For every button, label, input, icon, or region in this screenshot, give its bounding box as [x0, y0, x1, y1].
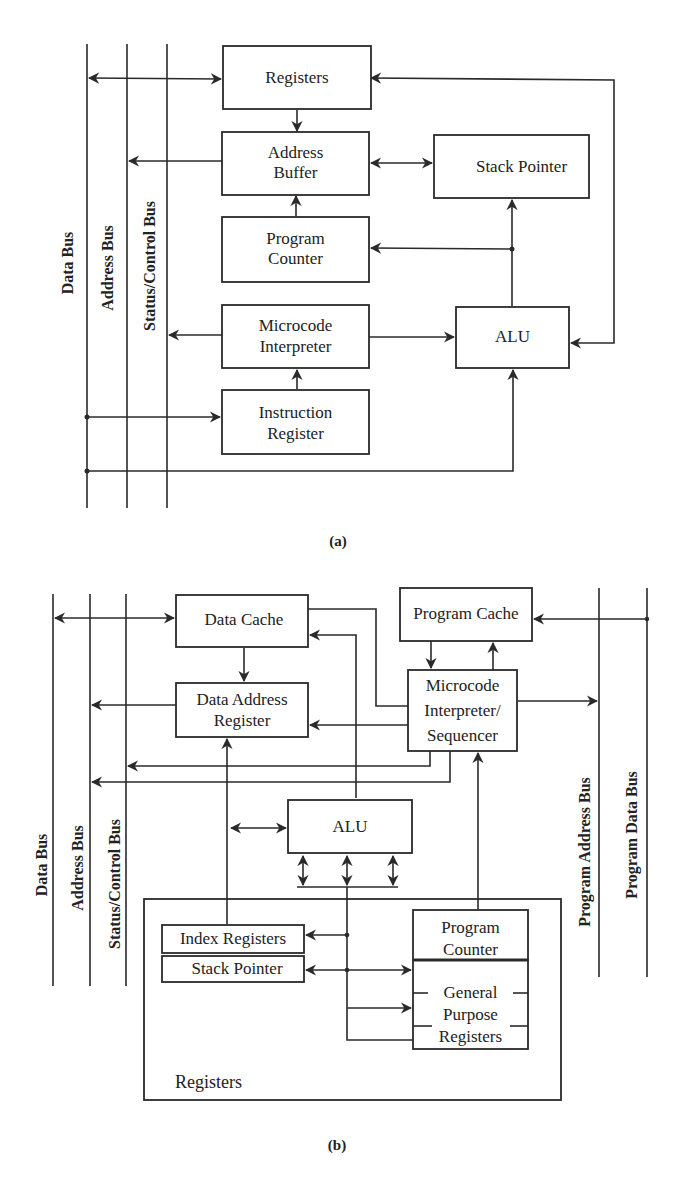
b-microcode-label-2: Interpreter/ — [408, 701, 517, 721]
b-gpr-label-2: Purpose — [413, 1005, 528, 1025]
b-data-cache-label: Data Cache — [180, 610, 308, 630]
a-address-buffer-label-1: Address — [222, 143, 369, 163]
b-registers-group-label: Registers — [175, 1072, 242, 1092]
a-address-bus-label: Address Bus — [99, 225, 117, 311]
a-alu-label: ALU — [456, 327, 569, 347]
b-gpr-label-1: General — [413, 983, 528, 1003]
caption-b: (b) — [328, 1137, 346, 1154]
a-instruction-register-label-2: Register — [222, 424, 369, 444]
b-dar-label-2: Register — [176, 711, 308, 731]
b-microcode-label-1: Microcode — [408, 676, 517, 696]
a-stack-pointer-label: Stack Pointer — [444, 157, 599, 177]
b-program-address-bus-label: Program Address Bus — [576, 777, 594, 927]
b-status-control-bus-label: Status/Control Bus — [106, 819, 124, 949]
b-program-counter-label-1: Program — [413, 918, 528, 938]
b-program-cache-label: Program Cache — [400, 604, 532, 624]
a-address-buffer-label-2: Buffer — [222, 163, 369, 183]
b-alu-label: ALU — [288, 817, 412, 837]
b-index-registers-label: Index Registers — [162, 929, 304, 949]
b-address-bus-label: Address Bus — [69, 825, 87, 911]
a-program-counter-label-1: Program — [222, 229, 369, 249]
b-program-data-bus-label: Program Data Bus — [623, 771, 641, 899]
b-program-counter-label-2: Counter — [413, 940, 528, 960]
b-stack-pointer-label: Stack Pointer — [170, 959, 304, 979]
a-status-control-bus-label: Status/Control Bus — [141, 201, 159, 331]
a-instruction-register-label-1: Instruction — [222, 403, 369, 423]
a-program-counter-label-2: Counter — [222, 249, 369, 269]
caption-a: (a) — [329, 533, 347, 550]
b-gpr-label-3: Registers — [413, 1027, 528, 1047]
diagram-b — [53, 588, 649, 1100]
a-registers-label: Registers — [223, 68, 371, 88]
b-dar-label-1: Data Address — [176, 690, 308, 710]
a-microcode-label-1: Microcode — [222, 316, 369, 336]
b-data-bus-label: Data Bus — [33, 834, 51, 897]
a-microcode-label-2: Interpreter — [222, 337, 369, 357]
b-microcode-label-3: Sequencer — [408, 726, 517, 746]
a-data-bus-label: Data Bus — [59, 232, 77, 295]
